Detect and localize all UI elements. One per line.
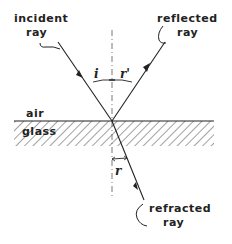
incident-ray — [58, 42, 112, 121]
reflected-pointer — [159, 26, 167, 43]
refracted-pointer — [136, 204, 147, 226]
reflected-label-1: reflected — [157, 12, 218, 25]
reflected-arrow-icon — [143, 63, 150, 72]
refracted-label-1: refracted — [149, 202, 211, 215]
reflected-label-2: ray — [177, 26, 198, 39]
angle-r-arc — [112, 158, 127, 159]
incident-pointer — [40, 43, 60, 49]
incident-label-2: ray — [26, 26, 47, 39]
refracted-label-2: ray — [163, 216, 184, 229]
angle-r-prime-label: r' — [120, 67, 130, 81]
incident-label-1: incident — [14, 12, 68, 25]
air-label: air — [26, 107, 44, 120]
angle-i-label: i — [94, 67, 99, 81]
reflected-ray — [112, 42, 165, 121]
ray-diagram: incident ray reflected ray refracted ray… — [0, 0, 232, 244]
angle-r-label: r — [115, 164, 123, 178]
incident-arrow-icon — [76, 70, 83, 78]
glass-label: glass — [22, 125, 57, 138]
